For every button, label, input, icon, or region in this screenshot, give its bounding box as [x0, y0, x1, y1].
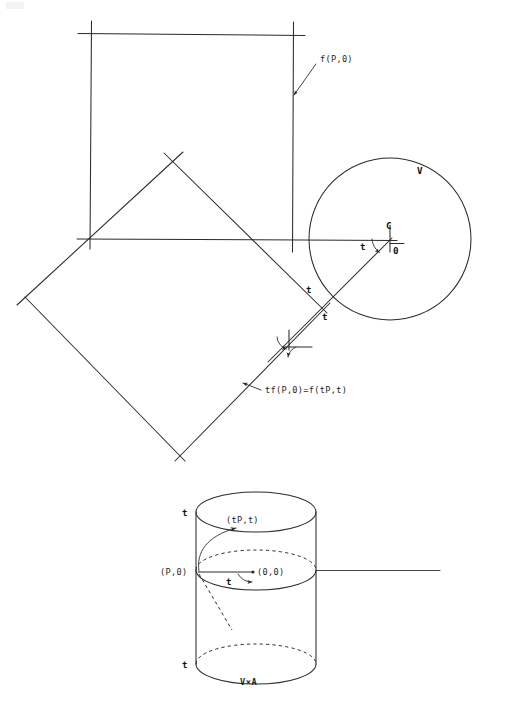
label-angle-t-intersect-upper: t — [306, 284, 312, 295]
point-marker-0-0 — [251, 570, 254, 573]
square-left-edge — [90, 21, 92, 249]
label-f-p-0: f(P,0) — [320, 54, 353, 64]
label-circle-region-v: V — [417, 165, 423, 176]
diamond-shape — [17, 152, 330, 461]
label-angle-t-mid: t — [226, 576, 232, 587]
square-bottom-edge — [77, 239, 397, 241]
diamond-lower-left-edge — [25, 297, 185, 461]
diamond-upper-right-edge — [164, 153, 327, 313]
label-cylinder-top-t: t — [182, 507, 188, 518]
label-point-p-0: (P,0) — [160, 567, 187, 577]
diamond-lower-right-edge — [175, 303, 330, 461]
cylinder-top-ellipse — [196, 492, 316, 532]
cylinder-bottom-ellipse-back — [196, 644, 316, 664]
label-angle-t-center: t — [360, 241, 366, 252]
radius-ray-line — [268, 238, 392, 362]
square-right-edge — [293, 22, 294, 252]
cylinder-mid-ellipse-front — [196, 570, 316, 590]
label-angle-t-intersect-lower: t — [322, 311, 328, 322]
figure-caption-v-cross-a: V×A — [240, 677, 258, 687]
intersection-tick-group — [277, 330, 312, 357]
lower-diagram-group: t t (tP,t) (P,0) (0,0) t V×A — [160, 492, 440, 687]
figure-page: f(P,0) V C 0 t t t tf(P,0)=f(tP,t) — [0, 0, 511, 706]
figure-canvas: f(P,0) V C 0 t t t tf(P,0)=f(tP,t) — [0, 0, 511, 706]
upper-diagram-group: f(P,0) V C 0 t t t tf(P,0)=f(tP,t) — [17, 21, 471, 461]
square-top-edge — [78, 34, 305, 36]
cylinder-mid-ellipse-back — [196, 550, 316, 570]
arrow-p0-to-tpt — [199, 528, 236, 571]
label-center-c: C — [386, 220, 392, 231]
diamond-upper-left-edge — [17, 152, 183, 305]
label-tf-identity: tf(P,0)=f(tP,t) — [265, 385, 347, 395]
label-point-tp-t: (tP,t) — [226, 515, 259, 525]
angle-arc-at-center — [372, 239, 380, 253]
label-zero-point: 0 — [393, 245, 399, 256]
label-point-0-0: (0,0) — [257, 567, 284, 577]
angle-arc-mid-disc — [238, 574, 252, 582]
label-cylinder-bottom-t: t — [182, 659, 188, 670]
leader-line-f-p-0 — [294, 64, 316, 95]
